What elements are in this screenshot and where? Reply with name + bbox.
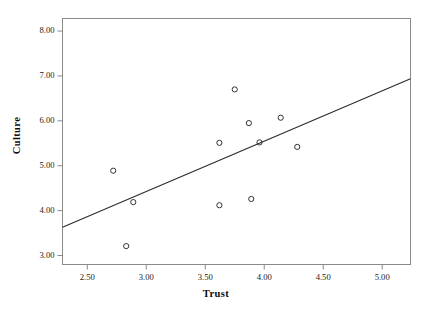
x-tick-label: 4.50 (303, 272, 343, 282)
x-tick-label: 2.50 (67, 272, 107, 282)
x-tick-label: 4.00 (244, 272, 284, 282)
y-axis-title: Culture (11, 96, 22, 176)
y-tick-label: 8.00 (15, 25, 55, 35)
x-axis-title: Trust (0, 288, 432, 299)
y-tick-label: 3.00 (15, 250, 55, 260)
x-tick-label: 5.00 (362, 272, 402, 282)
plot-frame (63, 19, 411, 265)
plot-canvas (0, 0, 432, 309)
x-tick-label: 3.00 (126, 272, 166, 282)
y-axis-ticks (58, 31, 63, 255)
y-tick-label: 4.00 (15, 205, 55, 215)
x-axis-ticks (87, 265, 382, 270)
scatter-chart: 2.503.003.504.004.505.00 3.004.005.006.0… (0, 0, 432, 309)
y-tick-label: 7.00 (15, 70, 55, 80)
x-tick-label: 3.50 (185, 272, 225, 282)
